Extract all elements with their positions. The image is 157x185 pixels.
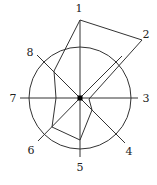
radar-diagram: 12345678 xyxy=(0,0,157,185)
axis-6 xyxy=(38,98,80,141)
axes-group xyxy=(20,20,138,157)
axis-label-2: 2 xyxy=(143,28,150,41)
center-marker xyxy=(78,96,83,101)
axis-label-3: 3 xyxy=(143,92,150,105)
axis-2 xyxy=(80,56,122,98)
axis-label-4: 4 xyxy=(126,145,133,158)
axis-label-5: 5 xyxy=(77,161,84,174)
axis-4 xyxy=(80,98,125,143)
axis-label-6: 6 xyxy=(28,144,35,157)
axis-label-7: 7 xyxy=(10,92,17,105)
data-polygon xyxy=(52,20,142,140)
axis-label-8: 8 xyxy=(27,46,34,59)
axis-label-1: 1 xyxy=(76,2,83,15)
